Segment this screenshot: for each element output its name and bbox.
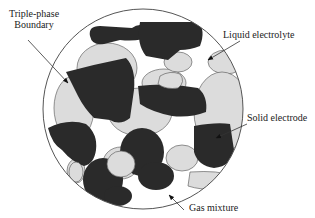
diagram-canvas: Triple-phase Boundary Liquid electrolyte… (0, 0, 315, 218)
label-liquid-electrolyte: Liquid electrolyte (223, 29, 294, 40)
label-line-1: Triple-phase (4, 8, 64, 19)
label-solid-electrode: Solid electrode (247, 112, 307, 123)
gas-mixture-arrow (169, 195, 184, 210)
label-line-2: Boundary (4, 19, 64, 30)
particle-cluster (48, 22, 250, 206)
label-gas-mixture: Gas mixture (189, 202, 238, 213)
label-triple-phase-boundary: Triple-phase Boundary (4, 8, 64, 30)
